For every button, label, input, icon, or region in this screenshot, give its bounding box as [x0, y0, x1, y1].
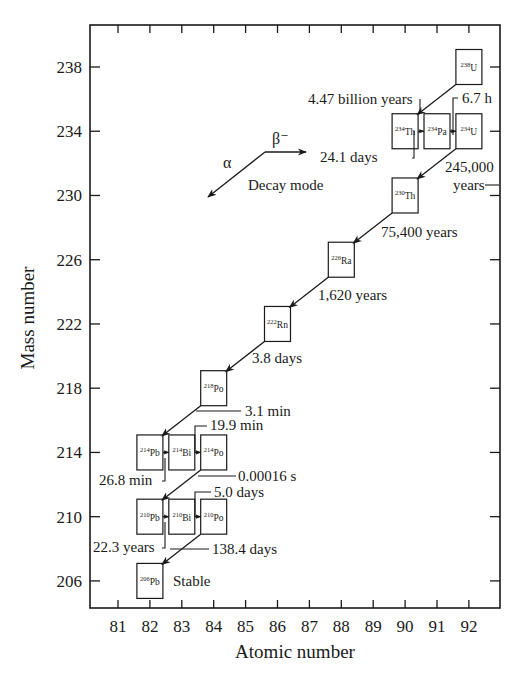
- element-symbol: Pa: [437, 127, 447, 137]
- nuclide-box-214pb: 214Pb: [137, 435, 163, 470]
- y-tick-label: 214: [57, 443, 83, 462]
- nuclide-box-222rn: 222Rn: [265, 306, 291, 341]
- x-tick-label: 85: [237, 617, 254, 636]
- halflife-u234-1: 245,000: [445, 159, 494, 175]
- element-symbol: U: [470, 127, 477, 137]
- x-tick-label: 92: [460, 617, 477, 636]
- halflife-po210: 138.4 days: [212, 541, 277, 557]
- nuclide-box-226ra: 226Ra: [328, 242, 354, 277]
- mass-number: 210: [172, 511, 182, 518]
- element-symbol: U: [470, 63, 477, 73]
- decay-mode-caption: Decay mode: [248, 177, 324, 193]
- halflife-bi214: 19.9 min: [210, 417, 264, 433]
- nuclide-box-210bi: 210Bi: [169, 499, 195, 534]
- nuclide-boxes: 238U234Th234Pa234U230Th226Ra222Rn218Po21…: [137, 50, 482, 599]
- element-symbol: Ra: [341, 256, 352, 266]
- x-tick-label: 86: [269, 617, 286, 636]
- y-axis-title: Mass number: [17, 266, 38, 370]
- halflife-pa234: 6.7 h: [462, 90, 493, 106]
- y-tick-label: 210: [57, 508, 83, 527]
- y-tick-label: 206: [57, 572, 83, 591]
- nuclide-box-206pb: 206Pb: [137, 563, 163, 598]
- x-tick-label: 87: [301, 617, 319, 636]
- halflife-rn222: 3.8 days: [252, 350, 302, 366]
- alpha-label: α: [223, 154, 232, 171]
- halflife-ra226: 1,620 years: [318, 287, 387, 303]
- mass-number: 210: [140, 511, 150, 518]
- halflife-pb210: 22.3 years: [93, 539, 155, 555]
- element-symbol: Pb: [150, 513, 160, 523]
- x-tick-label: 81: [110, 617, 127, 636]
- x-tick-label: 88: [333, 617, 350, 636]
- alpha-decay-arrow: [417, 85, 456, 115]
- beta-label: β⁻: [272, 130, 289, 148]
- nuclide-box-234u: 234U: [456, 114, 482, 149]
- decay-mode-legend: β⁻ α Decay mode: [208, 130, 324, 197]
- nuclide-box-214po: 214Po: [201, 435, 227, 470]
- halflife-u238: 4.47 billion years: [308, 91, 413, 107]
- nuclide-box-238u: 238U: [456, 50, 482, 85]
- mass-number: 238: [461, 61, 471, 68]
- x-tick-label: 90: [397, 617, 414, 636]
- nuclide-box-218po: 218Po: [201, 371, 227, 406]
- x-tick-label: 91: [429, 617, 446, 636]
- nuclide-box-230th: 230Th: [392, 178, 418, 213]
- element-symbol: Po: [214, 448, 224, 458]
- nuclide-box-210pb: 210Pb: [137, 499, 163, 534]
- element-symbol: Po: [214, 384, 224, 394]
- element-symbol: Po: [214, 513, 224, 523]
- nuclide-box-234pa: 234Pa: [424, 114, 450, 149]
- y-tick-label: 222: [57, 315, 83, 334]
- mass-number: 218: [204, 382, 214, 389]
- element-symbol: Th: [405, 191, 416, 201]
- mass-number: 230: [395, 189, 405, 196]
- y-tick-label: 226: [57, 251, 83, 270]
- mass-number: 222: [267, 318, 277, 325]
- halflife-po214: 0.00016 s: [238, 468, 297, 484]
- nuclide-box-214bi: 214Bi: [169, 435, 195, 470]
- element-symbol: Rn: [277, 320, 288, 330]
- x-tick-label: 89: [365, 617, 382, 636]
- y-tick-label: 234: [57, 122, 83, 141]
- nuclide-box-210po: 210Po: [201, 499, 227, 534]
- y-tick-label: 218: [57, 379, 83, 398]
- element-symbol: Pb: [150, 448, 160, 458]
- stable-label: Stable: [173, 573, 211, 589]
- y-tick-label: 238: [57, 58, 83, 77]
- halflife-bi210: 5.0 days: [214, 484, 264, 500]
- x-tick-label: 84: [205, 617, 223, 636]
- element-symbol: Pb: [150, 577, 160, 587]
- x-tick-label: 83: [173, 617, 190, 636]
- halflife-th234: 24.1 days: [320, 149, 378, 165]
- x-axis-title: Atomic number: [235, 641, 355, 662]
- element-symbol: Bi: [182, 448, 191, 458]
- halflife-th230: 75,400 years: [381, 224, 458, 240]
- halflife-pb214: 26.8 min: [99, 472, 153, 488]
- y-tick-label: 230: [57, 186, 83, 205]
- element-symbol: Bi: [182, 513, 191, 523]
- decay-chain-diagram: 8182838485868788899091922062102142182222…: [0, 0, 521, 687]
- mass-number: 210: [204, 511, 214, 518]
- halflife-u234-2: years: [453, 177, 485, 193]
- x-tick-label: 82: [141, 617, 158, 636]
